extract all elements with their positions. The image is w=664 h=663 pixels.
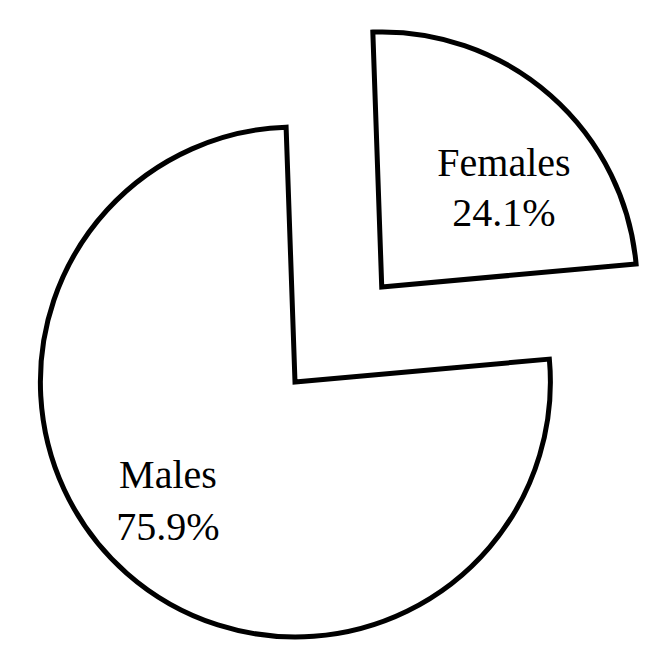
label-females-name: Females (437, 140, 570, 185)
label-females-pct: 24.1% (452, 190, 555, 235)
label-males-pct: 75.9% (116, 504, 219, 549)
pie-chart: Females 24.1% Males 75.9% (0, 0, 664, 663)
label-males-name: Males (119, 452, 217, 497)
